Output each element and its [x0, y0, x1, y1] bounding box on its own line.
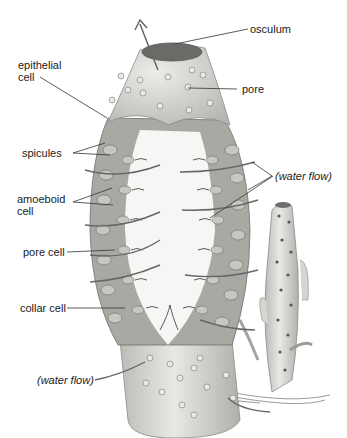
label-water-flow-bottom: (water flow)	[37, 374, 94, 386]
label-epithelial-cell-line2: cell	[18, 71, 35, 83]
label-epithelial-cell-line1: epithelial	[18, 59, 61, 71]
label-pore: pore	[242, 83, 264, 95]
label-collar-cell: collar cell	[20, 302, 66, 314]
label-amoeboid-cell-line1: amoeboid	[17, 193, 65, 205]
label-amoeboid-cell-line2: cell	[17, 205, 34, 217]
label-spicules: spicules	[22, 147, 62, 159]
label-water-flow-right: (water flow)	[275, 170, 332, 182]
label-pore-cell: pore cell	[23, 246, 65, 258]
small-sponge	[240, 202, 312, 392]
sponge-base	[120, 340, 240, 438]
label-osculum: osculum	[250, 23, 291, 35]
